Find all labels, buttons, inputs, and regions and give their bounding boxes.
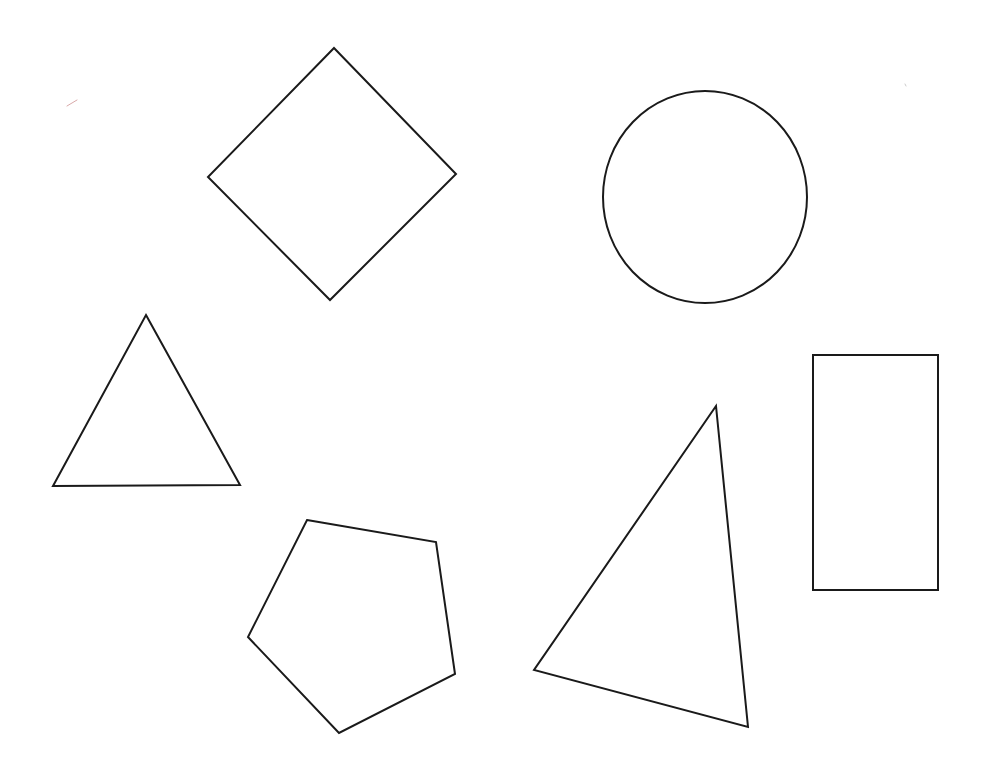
canvas-background [0, 0, 984, 770]
shapes-canvas [0, 0, 984, 770]
